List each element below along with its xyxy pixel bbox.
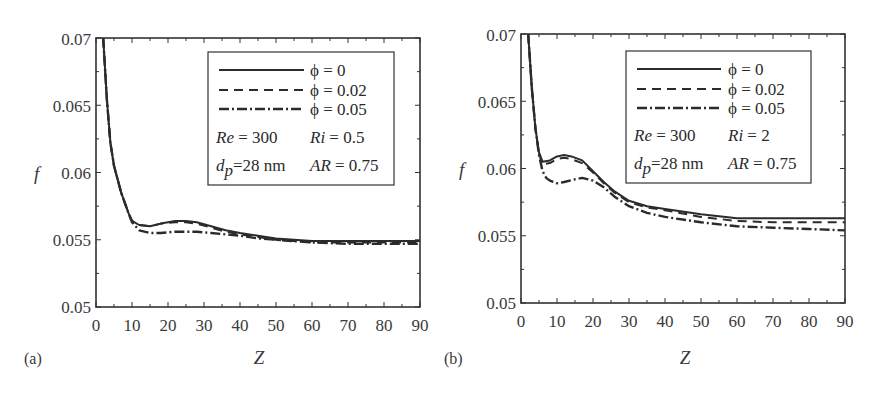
legend: ϕ = 0 ϕ = 0.02 ϕ = 0.05 Re = 300 Ri = 0.… [208, 52, 394, 185]
xtick-label: 10 [124, 316, 141, 335]
ri-value: = 2 [743, 126, 770, 145]
xtick-label: 40 [232, 316, 249, 335]
ytick-label: 0.06 [61, 164, 91, 183]
re-symbol: Re [215, 128, 234, 147]
dp-subscript: p [642, 159, 652, 178]
x-axis-tick-labels: 0 10 20 30 40 50 60 70 80 90 [92, 316, 429, 335]
xtick-label: 50 [268, 316, 285, 335]
ar-value: = 0.75 [331, 156, 379, 175]
xtick-label: 40 [657, 312, 674, 331]
xtick-label: 30 [196, 316, 213, 335]
re-value: = 300 [234, 128, 278, 147]
legend-entry: ϕ = 0 [728, 60, 764, 79]
y-axis-title: f [34, 163, 42, 184]
ytick-label: 0.055 [478, 227, 516, 246]
panel-label: (a) [24, 350, 42, 368]
xtick-label: 90 [412, 316, 429, 335]
ri-symbol: Ri [727, 126, 743, 145]
chart-panel-b: 0.05 0.055 0.06 0.065 0.07 0 10 20 30 40… [444, 26, 854, 368]
y-axis-tick-labels: 0.05 0.055 0.06 0.065 0.07 [53, 30, 92, 317]
ytick-label: 0.07 [486, 26, 516, 45]
dp-value: =28 nm [233, 156, 286, 175]
ytick-label: 0.065 [478, 93, 516, 112]
dp-subscript: p [224, 161, 234, 180]
x-axis-title: Z [254, 347, 265, 368]
y-axis-tick-labels: 0.05 0.055 0.06 0.065 0.07 [478, 26, 517, 313]
xtick-label: 90 [837, 312, 854, 331]
legend-entry: ϕ = 0.05 [310, 100, 367, 119]
re-symbol: Re [633, 126, 652, 145]
xtick-label: 80 [801, 312, 818, 331]
legend: ϕ = 0 ϕ = 0.02 ϕ = 0.05 Re = 300 Ri = 2 … [626, 51, 811, 183]
xtick-label: 0 [517, 312, 526, 331]
re-value: = 300 [652, 126, 696, 145]
xtick-label: 80 [376, 316, 393, 335]
ytick-label: 0.06 [486, 160, 516, 179]
y-axis-title: f [459, 159, 467, 180]
legend-entry: ϕ = 0.02 [310, 81, 367, 100]
ytick-label: 0.05 [486, 294, 516, 313]
xtick-label: 20 [160, 316, 177, 335]
xtick-label: 30 [621, 312, 638, 331]
ri-symbol: Ri [309, 128, 325, 147]
panel-label: (b) [444, 350, 463, 368]
xtick-label: 0 [92, 316, 101, 335]
xtick-label: 70 [765, 312, 782, 331]
ytick-label: 0.065 [53, 97, 91, 116]
ar-value: = 0.75 [749, 154, 797, 173]
xtick-label: 70 [340, 316, 357, 335]
x-axis-title: Z [680, 347, 691, 368]
legend-entry: ϕ = 0.02 [728, 80, 785, 99]
figure: 0.05 0.055 0.06 0.065 0.07 0 10 20 30 40… [0, 0, 879, 395]
ytick-label: 0.05 [61, 298, 91, 317]
xtick-label: 20 [585, 312, 602, 331]
legend-entry: ϕ = 0 [310, 61, 346, 80]
ar-symbol: AR [727, 154, 749, 173]
xtick-label: 60 [729, 312, 746, 331]
ytick-label: 0.055 [53, 231, 91, 250]
ytick-label: 0.07 [61, 30, 91, 49]
ri-value: = 0.5 [325, 128, 364, 147]
xtick-label: 50 [693, 312, 710, 331]
ar-symbol: AR [309, 156, 331, 175]
x-axis-tick-labels: 0 10 20 30 40 50 60 70 80 90 [517, 312, 854, 331]
legend-entry: ϕ = 0.05 [728, 99, 785, 118]
xtick-label: 10 [549, 312, 566, 331]
dp-value: =28 nm [651, 154, 704, 173]
chart-panel-a: 0.05 0.055 0.06 0.065 0.07 0 10 20 30 40… [24, 30, 429, 368]
xtick-label: 60 [304, 316, 321, 335]
